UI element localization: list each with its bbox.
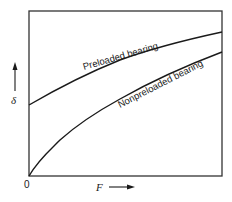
x-axis-label: F	[95, 181, 103, 193]
up-arrow-icon	[13, 62, 18, 70]
preloaded-bearing-label: Preloaded bearing	[82, 40, 160, 72]
bearing-deflection-diagram: Preloaded bearing Nonpreloaded bearing δ…	[0, 0, 232, 202]
y-axis-label: δ	[11, 94, 17, 106]
origin-label: 0	[24, 179, 30, 190]
plot-frame	[29, 11, 222, 176]
right-arrow-icon	[127, 185, 135, 190]
nonpreloaded-bearing-label: Nonpreloaded bearing	[116, 57, 205, 109]
